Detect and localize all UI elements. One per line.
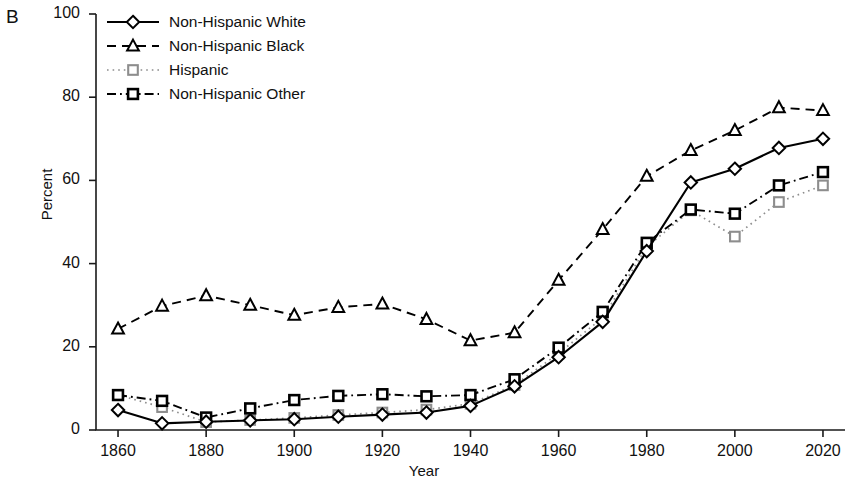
legend-label: Non-Hispanic Other [169, 86, 305, 102]
legend-item-non-hispanic-white[interactable]: Non-Hispanic White [105, 10, 365, 34]
data-series-layer [112, 101, 829, 429]
legend-label: Hispanic [169, 62, 228, 78]
legend-swatch-triangle-icon [105, 34, 161, 58]
figure-panel-b: B Percent Year 020406080100 186018801900… [0, 0, 848, 488]
series-non-hispanic-other [113, 167, 828, 422]
legend-swatch-square-bold-icon [105, 82, 161, 106]
legend-item-hispanic[interactable]: Hispanic [105, 58, 365, 82]
legend-swatch-square-gray-icon [105, 58, 161, 82]
legend-label: Non-Hispanic White [169, 14, 306, 30]
series-non-hispanic-white [112, 133, 829, 430]
chart-legend: Non-Hispanic WhiteNon-Hispanic BlackHisp… [105, 10, 365, 106]
legend-swatch-diamond-icon [105, 10, 161, 34]
legend-item-non-hispanic-black[interactable]: Non-Hispanic Black [105, 34, 365, 58]
legend-item-non-hispanic-other[interactable]: Non-Hispanic Other [105, 82, 365, 106]
series-non-hispanic-black [112, 101, 829, 345]
legend-label: Non-Hispanic Black [169, 38, 304, 54]
